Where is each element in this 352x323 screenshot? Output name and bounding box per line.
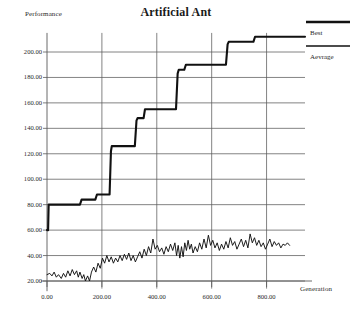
- y-tick-label: 60.00: [8, 226, 42, 233]
- tick-marks: [43, 52, 267, 287]
- chart-plot-area: [0, 0, 352, 323]
- y-tick-label: 180.00: [8, 73, 42, 80]
- legend-label-aevrage: Aevrage: [310, 53, 334, 61]
- x-tick-label: 0.00: [27, 293, 67, 300]
- y-tick-label: 20.00: [8, 277, 42, 284]
- x-tick-label: 200.00: [82, 293, 122, 300]
- y-tick-label: 80.00: [8, 201, 42, 208]
- x-tick-label: 400.00: [137, 293, 177, 300]
- y-tick-label: 160.00: [8, 99, 42, 106]
- x-tick-label: 600.00: [192, 293, 232, 300]
- series-line-aevrage: [47, 234, 290, 281]
- y-tick-label: 200.00: [8, 48, 42, 55]
- y-tick-label: 120.00: [8, 150, 42, 157]
- x-tick-label: 800.00: [247, 293, 287, 300]
- y-tick-label: 140.00: [8, 124, 42, 131]
- y-tick-label: 100.00: [8, 175, 42, 182]
- y-tick-label: 40.00: [8, 252, 42, 259]
- legend-label-best: Best: [310, 29, 322, 37]
